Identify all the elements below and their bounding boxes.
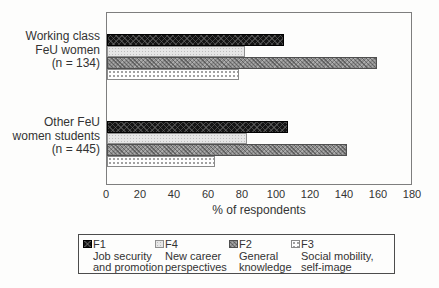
x-tick-label: 80 [236, 188, 248, 200]
bar-group1-f4 [107, 133, 247, 145]
group-label-other-feu: Other FeU women students (n = 445) [0, 116, 100, 157]
group-label-line: (n = 134) [0, 57, 100, 71]
x-tick-label: 40 [168, 188, 180, 200]
legend-code: F2 [239, 238, 252, 250]
legend-desc: General knowledge [239, 251, 292, 272]
x-axis-title: % of respondents [106, 203, 412, 217]
bar-group0-f1 [107, 34, 284, 46]
group-label-line: FeU women [0, 44, 100, 58]
legend-desc-line: New career [165, 251, 227, 262]
legend-code: F3 [301, 238, 314, 250]
legend-desc-line: self-image [301, 262, 374, 273]
legend-head: F3 [291, 238, 374, 249]
legend-swatch-f4 [155, 240, 164, 248]
legend-entry-f1: F1 Job security and promotion [83, 238, 163, 272]
legend-desc: New career perspectives [165, 251, 227, 272]
x-tick-label: 120 [301, 188, 319, 200]
legend-desc-line: Job security [93, 251, 163, 262]
group-label-line: (n = 445) [0, 143, 100, 157]
x-tick-label: 100 [267, 188, 285, 200]
legend-box: F1 Job security and promotion F4 New car… [78, 234, 395, 274]
x-tick-label: 0 [103, 188, 109, 200]
bar-group1-f2 [107, 144, 347, 156]
bar-group0-f4 [107, 46, 245, 58]
group-label-line: Other FeU [0, 116, 100, 130]
legend-desc: Social mobility, self-image [301, 251, 374, 272]
legend-head: F4 [155, 238, 227, 249]
legend-desc-line: Social mobility, [301, 251, 374, 262]
plot-area [106, 12, 412, 185]
group-label-line: women students [0, 130, 100, 144]
x-axis: 020406080100120140160180 [106, 188, 412, 200]
legend-desc-line: knowledge [239, 262, 292, 273]
legend-entry-f3: F3 Social mobility, self-image [291, 238, 374, 272]
legend-entry-f4: F4 New career perspectives [155, 238, 227, 272]
bar-group1-f1 [107, 121, 288, 133]
legend-head: F1 [83, 238, 163, 249]
legend-desc-line: and promotion [93, 262, 163, 273]
legend-swatch-f2 [229, 240, 238, 248]
legend-desc-line: perspectives [165, 262, 227, 273]
legend-code: F1 [93, 238, 106, 250]
x-tick-label: 180 [403, 188, 421, 200]
bar-group-0 [107, 34, 411, 80]
legend-code: F4 [165, 238, 178, 250]
legend-swatch-f3 [291, 240, 300, 248]
legend-swatch-f1 [83, 240, 92, 248]
x-tick-label: 140 [335, 188, 353, 200]
legend-desc-line: General [239, 251, 292, 262]
x-tick-label: 160 [369, 188, 387, 200]
chart-figure: Working class FeU women (n = 134) Other … [0, 0, 439, 288]
bar-group0-f3 [107, 69, 239, 81]
legend-desc: Job security and promotion [93, 251, 163, 272]
bar-group1-f3 [107, 156, 215, 168]
bar-group-1 [107, 121, 411, 167]
x-tick-label: 20 [134, 188, 146, 200]
legend-entry-f2: F2 General knowledge [229, 238, 292, 272]
group-label-line: Working class [0, 30, 100, 44]
x-tick-label: 60 [202, 188, 214, 200]
bar-group0-f2 [107, 57, 377, 69]
legend-head: F2 [229, 238, 292, 249]
group-label-working-class: Working class FeU women (n = 134) [0, 30, 100, 71]
